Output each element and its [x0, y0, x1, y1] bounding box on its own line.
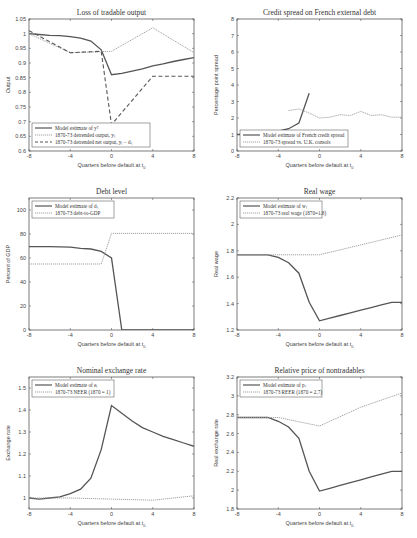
x-axis-label: Quarters before default at t0	[286, 341, 355, 349]
y-tick-label: 1.2	[226, 327, 234, 333]
x-tick-label: -4	[68, 511, 73, 517]
y-axis-label: Real wage	[213, 251, 219, 277]
x-tick-label: 0	[110, 511, 113, 517]
legend-entry: Model estimate of eₜ	[55, 382, 98, 388]
legend-entry: Model estimate of pₜ	[263, 382, 307, 388]
x-axis-label: Quarters before default at t0	[286, 162, 355, 170]
y-tick-label: 1.2	[18, 451, 26, 457]
y-tick-label: 1.6	[226, 274, 234, 280]
x-tick-label: -8	[27, 332, 32, 338]
y-tick-label: 0.7	[18, 119, 26, 125]
x-tick-label: -8	[235, 511, 240, 517]
x-tick-label: 0	[110, 332, 113, 338]
x-tick-label: 8	[192, 332, 195, 338]
chart-tradable-output: Loss of tradable output-8-40480.60.650.7…	[0, 0, 208, 179]
chart-title: Relative price of nontradables	[274, 366, 364, 375]
series-line	[237, 418, 402, 492]
series-line	[29, 34, 194, 75]
y-tick-label: 3.2	[226, 374, 234, 380]
legend-entry: 1870-73 debt-to-GDP	[55, 210, 101, 216]
legend: Model estimate of dₜ1870-73 debt-to-GDP	[32, 201, 114, 218]
y-tick-label: 2	[231, 115, 234, 121]
x-tick-label: -8	[235, 332, 240, 338]
legend: Model estimate of wₜ1870-73 real wage (1…	[240, 201, 326, 218]
y-tick-label: 3	[231, 99, 234, 105]
legend: Model estimate of pₜ1870-73 REER (1870 =…	[240, 380, 322, 397]
series-line	[29, 247, 194, 330]
panel-real-wage: Real wage-8-40481.21.41.61.822.2Quarters…	[208, 179, 416, 358]
y-tick-label: 2.6	[226, 431, 234, 437]
y-tick-label: 0.9	[18, 60, 26, 66]
y-tick-label: 2	[231, 221, 234, 227]
x-tick-label: 4	[359, 332, 362, 338]
x-tick-label: 8	[400, 153, 403, 159]
y-tick-label: 100	[17, 207, 26, 213]
series-line	[29, 28, 194, 53]
y-tick-label: 0.65	[15, 133, 26, 139]
y-axis-label: Percent of GDP	[5, 244, 11, 283]
y-tick-label: 20	[20, 303, 26, 309]
y-tick-label: 2.2	[226, 195, 234, 201]
legend-entry: 1870-73 NEER (1870 = 1)	[55, 389, 111, 396]
chart-debt-level: Debt level-8-4048020406080100Quarters be…	[0, 179, 208, 358]
y-tick-label: 2.2	[226, 468, 234, 474]
y-tick-label: 0	[23, 327, 26, 333]
x-tick-label: 0	[318, 153, 321, 159]
x-tick-label: 4	[151, 153, 154, 159]
y-tick-label: 4	[231, 82, 234, 88]
series-line	[237, 93, 309, 134]
legend-entry: 1870-73 real wage (1870=1.8)	[263, 210, 326, 217]
y-tick-label: 80	[20, 231, 26, 237]
y-tick-label: 0	[231, 148, 234, 154]
x-axis-label: Quarters before default at t0	[78, 520, 147, 528]
legend-entry: 1870-73 detrended net output, yₜ − dₜ	[55, 139, 133, 145]
chart-title: Debt level	[96, 187, 127, 196]
legend: Model estimate of eₜ1870-73 NEER (1870 =…	[32, 380, 114, 397]
x-tick-label: 0	[318, 511, 321, 517]
x-tick-label: 8	[192, 511, 195, 517]
y-tick-label: 3	[231, 393, 234, 399]
x-axis-label: Quarters before default at t0	[78, 162, 147, 170]
y-tick-label: 2.8	[226, 412, 234, 418]
series-line	[29, 496, 194, 500]
y-tick-label: 1.4	[226, 301, 234, 307]
x-tick-label: -4	[68, 332, 73, 338]
y-tick-label: 0.95	[15, 45, 26, 51]
x-tick-label: 8	[192, 153, 195, 159]
x-axis-label: Quarters before default at t0	[286, 520, 355, 528]
x-axis-label: Quarters before default at t0	[78, 341, 147, 349]
legend: Model estimate of yᵀ1870-73 detrended ou…	[32, 123, 150, 147]
chart-real-wage: Real wage-8-40481.21.41.61.822.2Quarters…	[208, 179, 416, 358]
panel-debt-level: Debt level-8-4048020406080100Quarters be…	[0, 179, 208, 358]
chart-title: Credit spread on French external debt	[263, 8, 377, 17]
y-tick-label: 1.5	[18, 385, 26, 391]
chart-relative-price-nontradables: Relative price of nontradables-8-40481.8…	[208, 358, 416, 538]
x-tick-label: -8	[27, 153, 32, 159]
series-line	[237, 235, 402, 255]
y-tick-label: 6	[231, 49, 234, 55]
y-tick-label: 60	[20, 255, 26, 261]
y-tick-label: 8	[231, 16, 234, 22]
panel-relative-price-nontradables: Relative price of nontradables-8-40481.8…	[208, 358, 416, 537]
y-tick-label: 2	[231, 487, 234, 493]
y-tick-label: 1.4	[18, 407, 26, 413]
y-axis-label: Real exchange rate	[213, 419, 219, 467]
panel-nominal-exchange-rate: Nominal exchange rate-8-404811.11.21.31.…	[0, 358, 208, 537]
chart-title: Nominal exchange rate	[77, 366, 147, 375]
x-tick-label: -4	[276, 332, 281, 338]
legend-entry: Model estimate of French credit spread	[263, 132, 345, 138]
panel-tradable-output: Loss of tradable output-8-40480.60.650.7…	[0, 0, 208, 179]
legend-entry: 1870-73 REER (1870 = 2.7)	[263, 389, 322, 396]
y-tick-label: 0.75	[15, 104, 26, 110]
chart-nominal-exchange-rate: Nominal exchange rate-8-404811.11.21.31.…	[0, 358, 208, 538]
y-tick-label: 1.3	[18, 429, 26, 435]
x-tick-label: -8	[27, 511, 32, 517]
x-tick-label: 8	[400, 332, 403, 338]
y-tick-label: 1	[23, 495, 26, 501]
y-tick-label: 1	[231, 132, 234, 138]
y-tick-label: 1	[23, 31, 26, 37]
y-tick-label: 0.6	[18, 148, 26, 154]
legend-entry: Model estimate of wₜ	[263, 203, 308, 209]
series-line	[29, 406, 194, 500]
y-tick-label: 1.8	[226, 506, 234, 512]
